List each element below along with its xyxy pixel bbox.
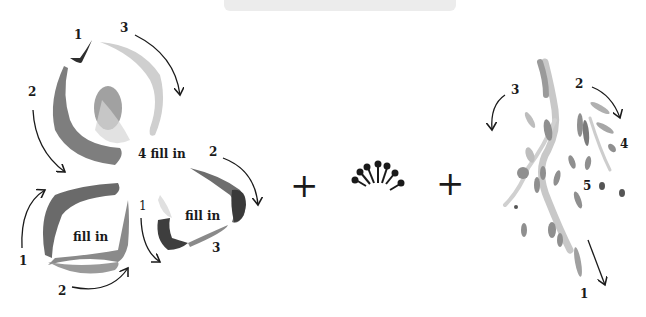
arrow-1 xyxy=(141,218,160,262)
arrow-3 xyxy=(492,95,505,130)
label-left-2: 2 xyxy=(58,285,66,297)
arrow-1 xyxy=(588,240,605,285)
diagram-canvas xyxy=(0,0,646,317)
label-foliage-3: 3 xyxy=(511,84,519,96)
stroke-1 xyxy=(43,183,119,258)
stroke-3 xyxy=(188,225,228,247)
stroke-1 xyxy=(157,218,188,250)
label-left-1: 1 xyxy=(19,255,27,267)
label-left-fill: fill in xyxy=(73,231,108,243)
label-right-3: 3 xyxy=(212,242,220,254)
label-top-2: 2 xyxy=(28,86,36,98)
plus-sign-1: + xyxy=(290,168,319,202)
label-right-1: 1 xyxy=(139,200,147,212)
label-foliage-5: 5 xyxy=(583,180,591,192)
label-right-fill: fill in xyxy=(185,210,220,222)
label-top-1: 1 xyxy=(74,29,82,41)
stroke-1-hook xyxy=(70,40,92,63)
label-foliage-2: 2 xyxy=(575,78,583,90)
label-foliage-4: 4 xyxy=(620,138,628,150)
label-foliage-1: 1 xyxy=(580,288,588,300)
plus-sign-2: + xyxy=(436,166,465,200)
label-top-3: 3 xyxy=(120,22,128,34)
label-right-2: 2 xyxy=(209,146,217,158)
label-top-4: 4 fill in xyxy=(138,148,186,160)
arrow-1 xyxy=(22,190,45,248)
stamen-icon xyxy=(353,162,404,191)
